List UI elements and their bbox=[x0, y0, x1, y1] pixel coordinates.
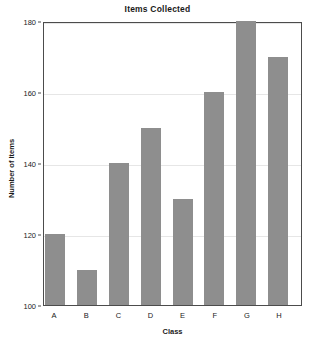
x-tick-slot: C bbox=[108, 307, 140, 323]
y-tick-mark bbox=[38, 235, 41, 236]
y-tick-label: 180 bbox=[23, 18, 36, 27]
x-tick-slot: F bbox=[205, 307, 237, 323]
plot-area bbox=[43, 22, 302, 306]
bar[interactable] bbox=[173, 199, 193, 306]
y-tick-mark bbox=[38, 164, 41, 165]
x-tick-label: B bbox=[84, 311, 89, 320]
y-tick-label: 140 bbox=[23, 160, 36, 169]
y-tick-mark bbox=[38, 22, 41, 23]
x-tick-label: G bbox=[244, 311, 250, 320]
bar-slot bbox=[141, 23, 173, 305]
x-tick-slot: D bbox=[140, 307, 172, 323]
bar[interactable] bbox=[236, 21, 256, 305]
x-axis-title: Class bbox=[43, 327, 302, 336]
bar[interactable] bbox=[141, 128, 161, 306]
x-tick-label: D bbox=[148, 311, 153, 320]
x-tick-slot: B bbox=[76, 307, 108, 323]
x-tick-label: H bbox=[276, 311, 281, 320]
x-tick-slot: E bbox=[173, 307, 205, 323]
bar-chart-figure: Items Collected Number of Items 10012014… bbox=[0, 0, 315, 348]
bar-slot bbox=[173, 23, 205, 305]
bar-slot bbox=[109, 23, 141, 305]
bars-layer bbox=[44, 23, 301, 305]
bar[interactable] bbox=[45, 234, 65, 305]
y-tick-mark bbox=[38, 93, 41, 94]
bar-slot bbox=[268, 23, 300, 305]
x-tick-label: A bbox=[52, 311, 57, 320]
y-tick-mark bbox=[38, 306, 41, 307]
y-tick-label: 160 bbox=[23, 89, 36, 98]
y-tick-label: 120 bbox=[23, 231, 36, 240]
bar[interactable] bbox=[109, 163, 129, 305]
bar-slot bbox=[45, 23, 77, 305]
x-tick-slot: G bbox=[237, 307, 269, 323]
x-tick-label: F bbox=[212, 311, 217, 320]
bar-slot bbox=[77, 23, 109, 305]
bar[interactable] bbox=[77, 270, 97, 306]
y-axis-ticks: 100120140160180 bbox=[0, 22, 41, 306]
bar-slot bbox=[204, 23, 236, 305]
bar[interactable] bbox=[268, 57, 288, 306]
bar[interactable] bbox=[204, 92, 224, 305]
chart-title: Items Collected bbox=[0, 4, 315, 14]
x-tick-slot: H bbox=[269, 307, 301, 323]
bar-slot bbox=[236, 23, 268, 305]
x-tick-label: E bbox=[180, 311, 185, 320]
x-axis-ticks: ABCDEFGH bbox=[43, 307, 302, 323]
x-tick-slot: A bbox=[44, 307, 76, 323]
x-tick-label: C bbox=[116, 311, 121, 320]
y-tick-label: 100 bbox=[23, 302, 36, 311]
